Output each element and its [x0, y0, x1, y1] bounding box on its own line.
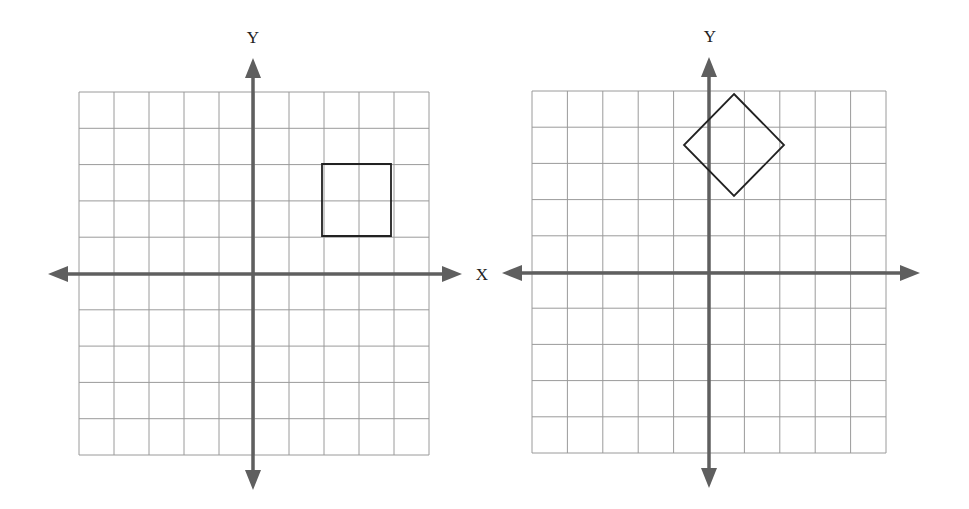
arrow-down-icon — [245, 470, 261, 490]
coordinate-grids-canvas — [0, 0, 969, 509]
left-x-axis-label: X — [476, 265, 488, 285]
left-square — [322, 164, 391, 236]
arrow-down-icon — [701, 468, 717, 488]
arrow-right-icon — [442, 266, 462, 282]
right-rotated-square — [684, 94, 784, 196]
arrow-up-icon — [245, 58, 261, 78]
arrow-right-icon — [900, 265, 920, 281]
arrow-up-icon — [701, 57, 717, 77]
arrow-left-icon — [502, 265, 522, 281]
arrow-left-icon — [48, 266, 68, 282]
left-y-axis-label: Y — [247, 28, 259, 48]
right-y-axis-label: Y — [704, 27, 716, 47]
